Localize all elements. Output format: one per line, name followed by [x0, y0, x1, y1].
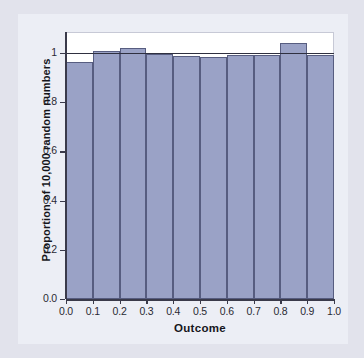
chart-figure: 0.00.10.20.30.40.50.60.70.80.91.0 0.00.2…	[18, 14, 348, 344]
y-tick	[60, 299, 65, 300]
y-tick	[60, 53, 65, 54]
x-tick	[254, 299, 255, 304]
x-tick	[93, 299, 94, 304]
bar	[66, 62, 93, 299]
x-tick	[120, 299, 121, 304]
y-tick	[60, 250, 65, 251]
y-axis-label: Proportion of 10,000 random numbers	[40, 35, 52, 285]
x-tick	[227, 299, 228, 304]
x-tick	[66, 299, 67, 304]
x-tick	[307, 299, 308, 304]
bar	[307, 55, 334, 299]
bar	[227, 55, 254, 299]
x-tick	[334, 299, 335, 304]
bar	[120, 48, 147, 299]
bar	[146, 54, 173, 299]
bar	[280, 43, 307, 299]
bar	[200, 57, 227, 299]
x-tick	[173, 299, 174, 304]
bar	[254, 55, 281, 299]
y-tick	[60, 102, 65, 103]
x-tick	[146, 299, 147, 304]
y-tick	[60, 151, 65, 152]
x-tick	[200, 299, 201, 304]
y-tick	[60, 201, 65, 202]
x-tick	[280, 299, 281, 304]
x-axis-label: Outcome	[66, 322, 334, 334]
x-tick-label: 1.0	[317, 305, 351, 317]
bar	[173, 56, 200, 299]
reference-line	[66, 53, 334, 54]
bar	[93, 51, 120, 299]
y-axis-line	[65, 32, 67, 299]
y-tick-label: 0.0	[18, 292, 57, 304]
bar-series	[66, 32, 334, 299]
